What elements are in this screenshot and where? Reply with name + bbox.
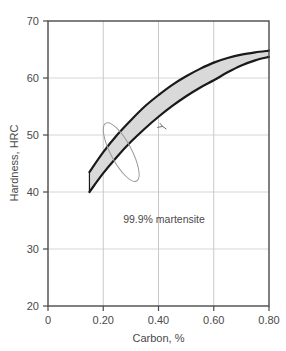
ytick-label-50: 50: [27, 129, 39, 141]
y-axis-title: Hardness, HRC: [8, 124, 20, 201]
ytick-label-30: 30: [27, 243, 39, 255]
xtick-label-060: 0.60: [203, 314, 224, 326]
y-tick-labels: 70 60 50 40 30 20: [27, 15, 39, 312]
x-axis-ticks: [48, 306, 269, 311]
xtick-label-040: 0.40: [148, 314, 169, 326]
chart-figure: 70 60 50 40 30 20 0 0.20 0.40 0.60 0.80 …: [0, 0, 286, 351]
band-annotation-label: 99.9% martensite: [123, 213, 205, 225]
ytick-label-70: 70: [27, 15, 39, 27]
x-axis-title: Carbon, %: [133, 332, 185, 344]
y-axis-ticks: [43, 21, 48, 306]
ytick-label-60: 60: [27, 72, 39, 84]
x-tick-labels: 0 0.20 0.40 0.60 0.80: [45, 314, 280, 326]
xtick-label-080: 0.80: [258, 314, 279, 326]
ytick-label-40: 40: [27, 186, 39, 198]
xtick-label-020: 0.20: [93, 314, 114, 326]
hardness-vs-carbon-chart: 70 60 50 40 30 20 0 0.20 0.40 0.60 0.80 …: [0, 0, 286, 351]
xtick-label-0: 0: [45, 314, 51, 326]
ytick-label-20: 20: [27, 300, 39, 312]
